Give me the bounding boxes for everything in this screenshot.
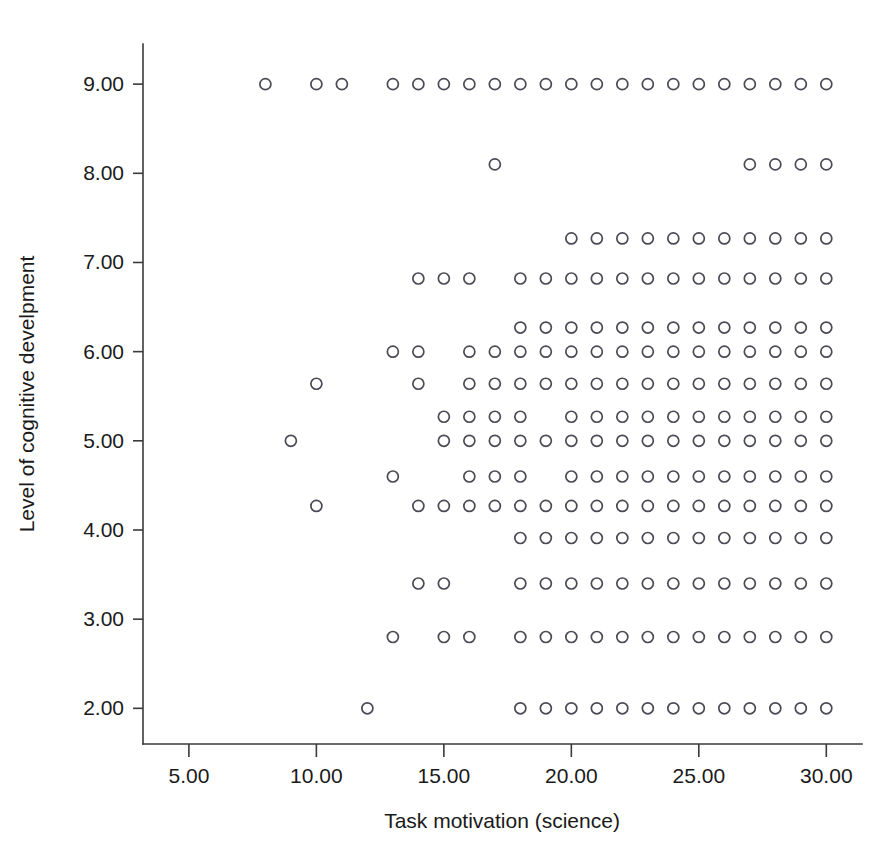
data-point: [642, 435, 653, 446]
data-point: [540, 346, 551, 357]
data-point: [642, 533, 653, 544]
data-point: [540, 79, 551, 90]
data-point: [617, 533, 628, 544]
data-point: [821, 322, 832, 333]
data-point: [464, 471, 475, 482]
data-point: [770, 533, 781, 544]
data-point: [668, 411, 679, 422]
data-point: [413, 500, 424, 511]
data-point: [770, 79, 781, 90]
data-point: [693, 471, 704, 482]
data-point: [438, 435, 449, 446]
data-point: [515, 79, 526, 90]
data-point: [362, 703, 373, 714]
data-point: [821, 159, 832, 170]
data-point: [719, 346, 730, 357]
data-point: [617, 411, 628, 422]
data-point: [770, 233, 781, 244]
data-point: [719, 578, 730, 589]
x-tick-label: 15.00: [418, 764, 471, 787]
data-point: [617, 79, 628, 90]
data-point: [387, 471, 398, 482]
y-tick-label: 5.00: [83, 429, 124, 452]
data-point: [591, 273, 602, 284]
y-tick-label: 4.00: [83, 518, 124, 541]
data-point: [566, 471, 577, 482]
data-point: [413, 378, 424, 389]
data-point: [642, 471, 653, 482]
data-point: [566, 578, 577, 589]
data-point: [821, 411, 832, 422]
y-tick-label: 8.00: [83, 161, 124, 184]
x-tick-label: 10.00: [290, 764, 343, 787]
data-point: [540, 631, 551, 642]
data-point: [770, 411, 781, 422]
data-point: [464, 273, 475, 284]
data-point: [693, 500, 704, 511]
data-point: [770, 578, 781, 589]
data-point: [642, 703, 653, 714]
data-point: [821, 435, 832, 446]
data-point: [285, 435, 296, 446]
data-point: [489, 500, 500, 511]
data-point: [617, 703, 628, 714]
data-point: [515, 322, 526, 333]
data-point: [744, 471, 755, 482]
x-tick-label: 30.00: [800, 764, 853, 787]
data-point: [591, 411, 602, 422]
data-point: [693, 435, 704, 446]
data-point: [668, 500, 679, 511]
data-point: [617, 346, 628, 357]
data-point: [566, 346, 577, 357]
data-point: [311, 79, 322, 90]
data-point: [821, 378, 832, 389]
data-point: [719, 533, 730, 544]
data-point: [744, 411, 755, 422]
data-point: [795, 631, 806, 642]
data-point: [770, 500, 781, 511]
data-point: [566, 631, 577, 642]
data-point: [515, 703, 526, 714]
data-point: [489, 159, 500, 170]
data-point: [719, 435, 730, 446]
data-point: [744, 703, 755, 714]
data-point: [795, 578, 806, 589]
data-point: [719, 273, 730, 284]
data-point: [591, 233, 602, 244]
data-point: [693, 411, 704, 422]
data-point: [795, 346, 806, 357]
data-point: [821, 346, 832, 357]
data-point: [668, 378, 679, 389]
data-point: [795, 378, 806, 389]
data-point: [744, 631, 755, 642]
data-point: [438, 500, 449, 511]
y-tick-label: 9.00: [83, 72, 124, 95]
data-point: [566, 273, 577, 284]
y-tick-label: 7.00: [83, 250, 124, 273]
data-point: [668, 273, 679, 284]
data-point: [464, 79, 475, 90]
y-tick-label: 3.00: [83, 607, 124, 630]
data-point: [591, 500, 602, 511]
data-point: [413, 79, 424, 90]
data-point: [719, 500, 730, 511]
data-point: [795, 435, 806, 446]
data-point: [489, 411, 500, 422]
scatter-plot-figure: 2.003.004.005.006.007.008.009.00 5.0010.…: [0, 0, 869, 867]
data-point: [515, 411, 526, 422]
data-point: [693, 703, 704, 714]
data-point: [719, 631, 730, 642]
data-point: [668, 703, 679, 714]
data-point: [438, 631, 449, 642]
data-point: [770, 435, 781, 446]
y-tick-label: 6.00: [83, 340, 124, 363]
data-point: [464, 411, 475, 422]
data-point: [464, 435, 475, 446]
data-point: [515, 346, 526, 357]
data-point: [795, 411, 806, 422]
data-point: [770, 346, 781, 357]
x-axis-ticks: 5.0010.0015.0020.0025.0030.00: [168, 744, 852, 787]
data-point: [744, 79, 755, 90]
data-point: [693, 631, 704, 642]
data-point: [591, 322, 602, 333]
